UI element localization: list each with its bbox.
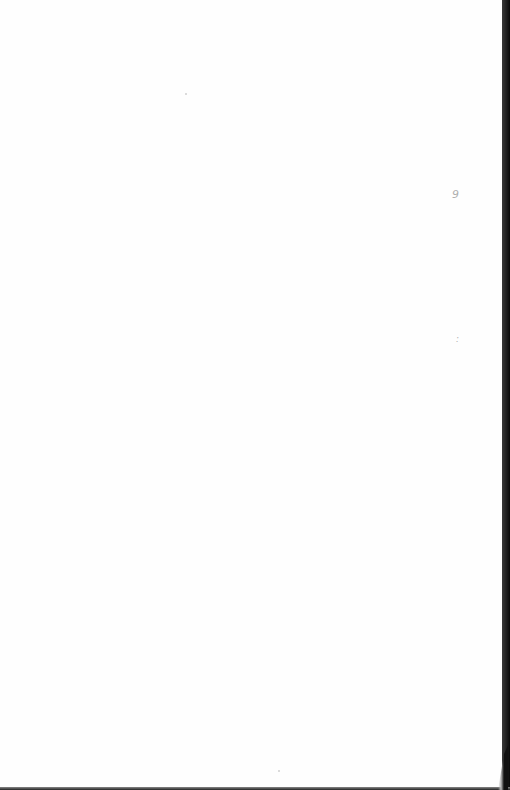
speck [185, 93, 187, 95]
blank-page: 9 : [0, 0, 502, 787]
speck [278, 770, 280, 772]
scan-edge-right [502, 0, 510, 790]
faint-mark: : [456, 334, 459, 344]
faint-mark: 9 [452, 188, 459, 201]
